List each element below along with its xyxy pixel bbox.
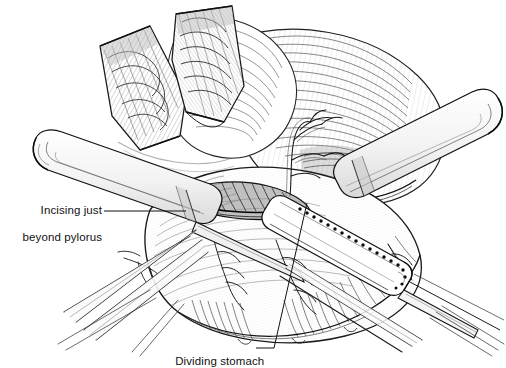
label-incising-line2: beyond pylorus — [23, 231, 102, 243]
surgical-illustration-figure: Incising just beyond pylorus Dividing st… — [0, 0, 506, 368]
illustration-artwork — [0, 0, 506, 368]
label-dividing-stomach: Dividing stomach — [162, 341, 272, 368]
label-dividing-line1: Dividing stomach — [175, 355, 264, 367]
label-incising-just-beyond-pylorus: Incising just beyond pylorus — [6, 190, 102, 258]
label-incising-line1: Incising just — [41, 204, 102, 216]
